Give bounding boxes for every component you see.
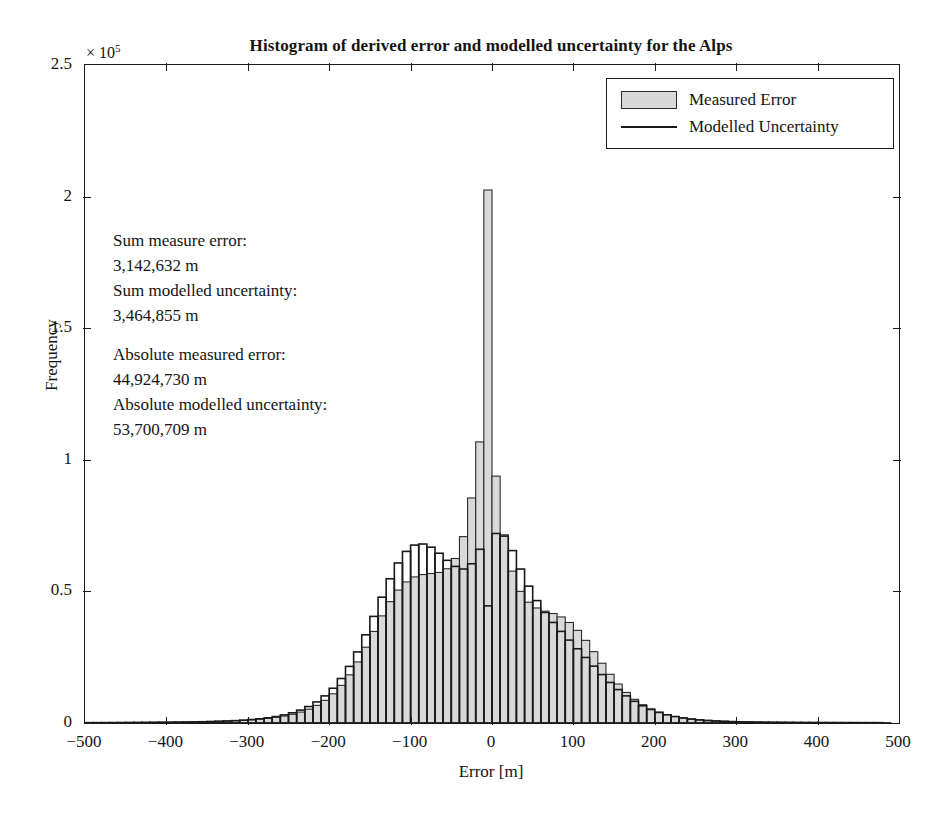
histogram-bar-measured bbox=[484, 190, 492, 723]
histogram-bar-modelled bbox=[777, 722, 785, 723]
y-axis-tick-right bbox=[893, 591, 901, 592]
x-axis-tick-top bbox=[248, 63, 249, 71]
histogram-bar-measured bbox=[354, 662, 362, 723]
y-axis-tick bbox=[83, 328, 91, 329]
histogram-bar-modelled bbox=[166, 722, 174, 723]
x-axis-tick-top bbox=[492, 63, 493, 71]
histogram-bar-measured bbox=[573, 630, 581, 723]
histogram-bar-measured bbox=[582, 640, 590, 723]
histogram-bar-modelled bbox=[191, 722, 199, 723]
histogram-bar-measured bbox=[345, 675, 353, 723]
histogram-bar-measured bbox=[565, 622, 573, 723]
annotation-line: 53,700,709 m bbox=[113, 417, 327, 442]
histogram-bar-measured bbox=[289, 714, 297, 723]
histogram-bar-modelled bbox=[199, 722, 207, 723]
histogram-bar-measured bbox=[313, 705, 321, 723]
y-axis-label: Frequency bbox=[42, 275, 62, 435]
histogram-bar-modelled bbox=[175, 722, 183, 723]
x-axis-tick-label: −300 bbox=[229, 732, 264, 752]
x-axis-tick bbox=[166, 717, 167, 725]
x-axis-tick-label: 500 bbox=[885, 732, 911, 752]
y-axis-tick-label: 0 bbox=[0, 712, 72, 732]
histogram-bar-measured bbox=[321, 700, 329, 723]
y-axis-tick-label: 0.5 bbox=[0, 580, 72, 600]
y-axis-tick-right bbox=[893, 197, 901, 198]
histogram-bar-measured bbox=[280, 716, 288, 723]
histogram-bar-modelled bbox=[720, 721, 728, 723]
histogram-bar-modelled bbox=[744, 722, 752, 723]
x-axis-tick-top bbox=[329, 63, 330, 71]
histogram-bar-measured bbox=[378, 616, 386, 723]
histogram-bar-measured bbox=[411, 577, 419, 723]
histogram-bar-measured bbox=[500, 535, 508, 723]
histogram-bar-modelled bbox=[150, 722, 158, 723]
line-swatch-icon bbox=[621, 126, 677, 128]
statistics-annotation-block: Sum measure error:3,142,632 mSum modelle… bbox=[113, 228, 327, 442]
x-axis-tick-label: −400 bbox=[148, 732, 183, 752]
x-axis-tick-label: −200 bbox=[311, 732, 346, 752]
y-axis-tick bbox=[83, 591, 91, 592]
x-axis-tick-top bbox=[166, 63, 167, 71]
histogram-bar-measured bbox=[476, 442, 484, 723]
y-axis-tick-label: 2 bbox=[0, 186, 72, 206]
x-axis-tick bbox=[818, 717, 819, 725]
histogram-bar-measured bbox=[622, 692, 630, 723]
x-axis-tick-top bbox=[411, 63, 412, 71]
legend-item-measured-error: Measured Error bbox=[607, 86, 893, 113]
histogram-bar-measured bbox=[630, 699, 638, 723]
y-axis-tick bbox=[83, 460, 91, 461]
legend-swatch-wrap bbox=[617, 91, 681, 109]
x-axis-tick-label: −100 bbox=[392, 732, 427, 752]
histogram-bar-measured bbox=[598, 663, 606, 723]
histogram-bar-measured bbox=[272, 717, 280, 723]
histogram-bar-measured bbox=[459, 537, 467, 723]
x-axis-tick bbox=[573, 717, 574, 725]
histogram-bar-measured bbox=[557, 617, 565, 723]
annotation-line: 44,924,730 m bbox=[113, 367, 327, 392]
x-axis-tick bbox=[329, 717, 330, 725]
histogram-bar-measured bbox=[663, 715, 671, 723]
y-axis-tick-label: 2.5 bbox=[0, 54, 72, 74]
x-axis-tick-label: 200 bbox=[641, 732, 667, 752]
histogram-bar-modelled bbox=[761, 722, 769, 723]
annotation-line: Absolute measured error: bbox=[113, 342, 327, 367]
y-axis-tick bbox=[83, 197, 91, 198]
histogram-bar-measured bbox=[435, 572, 443, 723]
histogram-bar-measured bbox=[655, 712, 663, 723]
histogram-bar-measured bbox=[541, 611, 549, 723]
x-axis-tick-top bbox=[655, 63, 656, 71]
annotation-line: 3,142,632 m bbox=[113, 253, 327, 278]
histogram-bar-measured bbox=[451, 559, 459, 724]
histogram-bar-modelled bbox=[207, 722, 215, 723]
x-axis-label: Error [m] bbox=[84, 762, 898, 782]
x-axis-tick-top bbox=[573, 63, 574, 71]
histogram-bar-measured bbox=[329, 694, 337, 723]
histogram-bar-measured bbox=[525, 602, 533, 723]
legend-item-modelled-uncertainty: Modelled Uncertainty bbox=[607, 113, 893, 140]
histogram-bar-modelled bbox=[142, 722, 150, 723]
x-axis-tick-label: −500 bbox=[66, 732, 101, 752]
histogram-bar-measured bbox=[549, 614, 557, 723]
annotation-spacer bbox=[113, 328, 327, 342]
x-axis-tick-label: 400 bbox=[804, 732, 830, 752]
histogram-bar-measured bbox=[647, 709, 655, 723]
legend-swatch-wrap bbox=[617, 126, 681, 128]
histogram-bar-measured bbox=[337, 685, 345, 723]
histogram-bar-measured bbox=[443, 569, 451, 723]
histogram-bar-measured bbox=[671, 716, 679, 723]
annotation-line: 3,464,855 m bbox=[113, 303, 327, 328]
x-axis-tick bbox=[736, 717, 737, 725]
figure-canvas: Histogram of derived error and modelled … bbox=[0, 0, 944, 814]
histogram-bar-measured bbox=[508, 571, 516, 723]
legend: Measured Error Modelled Uncertainty bbox=[606, 78, 894, 149]
histogram-bar-modelled bbox=[785, 722, 793, 723]
histogram-bar-modelled bbox=[793, 722, 801, 723]
annotation-line: Sum measure error: bbox=[113, 228, 327, 253]
histogram-bar-measured bbox=[419, 575, 427, 723]
x-axis-tick bbox=[411, 717, 412, 725]
histogram-bar-measured bbox=[533, 608, 541, 723]
x-axis-tick bbox=[248, 717, 249, 725]
histogram-bar-measured bbox=[492, 476, 500, 723]
y-axis-exponent-power: 5 bbox=[115, 42, 121, 54]
histogram-bar-measured bbox=[468, 498, 476, 723]
